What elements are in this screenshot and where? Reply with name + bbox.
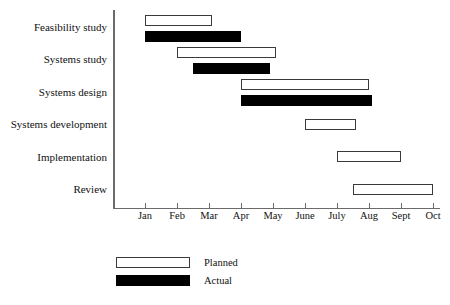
x-tick-label-may: May bbox=[263, 210, 282, 222]
x-tick-label-july: July bbox=[328, 210, 346, 222]
bar-planned-systems-design bbox=[241, 79, 369, 90]
x-tick-feb bbox=[177, 203, 178, 208]
task-label-feasibility-study: Feasibility study bbox=[34, 21, 107, 34]
task-label-implementation: Implementation bbox=[37, 150, 107, 163]
bar-planned-systems-study bbox=[177, 47, 276, 58]
x-tick-june bbox=[305, 203, 306, 208]
x-tick-may bbox=[273, 203, 274, 208]
x-tick-oct bbox=[433, 203, 434, 208]
legend-label-actual: Actual bbox=[204, 274, 232, 288]
bar-actual-systems-study bbox=[193, 63, 270, 74]
x-tick-jan bbox=[145, 203, 146, 208]
task-label-systems-study: Systems study bbox=[44, 53, 107, 66]
x-tick-label-feb: Feb bbox=[169, 210, 185, 222]
bar-planned-review bbox=[353, 184, 433, 195]
x-tick-apr bbox=[241, 203, 242, 208]
legend-swatch-actual bbox=[116, 275, 190, 286]
x-tick-sept bbox=[401, 203, 402, 208]
x-tick-aug bbox=[369, 203, 370, 208]
x-tick-mar bbox=[209, 203, 210, 208]
x-tick-label-apr: Apr bbox=[233, 210, 249, 222]
x-tick-label-oct: Oct bbox=[425, 210, 440, 222]
x-tick-label-aug: Aug bbox=[360, 210, 378, 222]
x-tick-label-mar: Mar bbox=[200, 210, 218, 222]
x-tick-label-sept: Sept bbox=[392, 210, 411, 222]
x-tick-label-june: June bbox=[295, 210, 314, 222]
figure-caption bbox=[0, 299, 450, 305]
x-tick-label-jan: Jan bbox=[138, 210, 152, 222]
x-axis-line bbox=[113, 208, 440, 210]
bar-planned-systems-development bbox=[305, 119, 356, 130]
task-label-review: Review bbox=[73, 183, 107, 196]
legend-swatch-planned bbox=[116, 257, 190, 268]
task-label-systems-development: Systems development bbox=[11, 118, 107, 131]
bar-planned-feasibility-study bbox=[145, 15, 212, 26]
bar-planned-implementation bbox=[337, 151, 401, 162]
gantt-chart: JanFebMarAprMayJuneJulyAugSeptOct Feasib… bbox=[0, 0, 450, 305]
task-label-systems-design: Systems design bbox=[39, 85, 107, 98]
y-axis-line bbox=[113, 10, 115, 209]
x-tick-july bbox=[337, 203, 338, 208]
bar-actual-systems-design bbox=[241, 95, 372, 106]
legend-label-planned: Planned bbox=[204, 256, 238, 270]
bar-actual-feasibility-study bbox=[145, 31, 241, 42]
